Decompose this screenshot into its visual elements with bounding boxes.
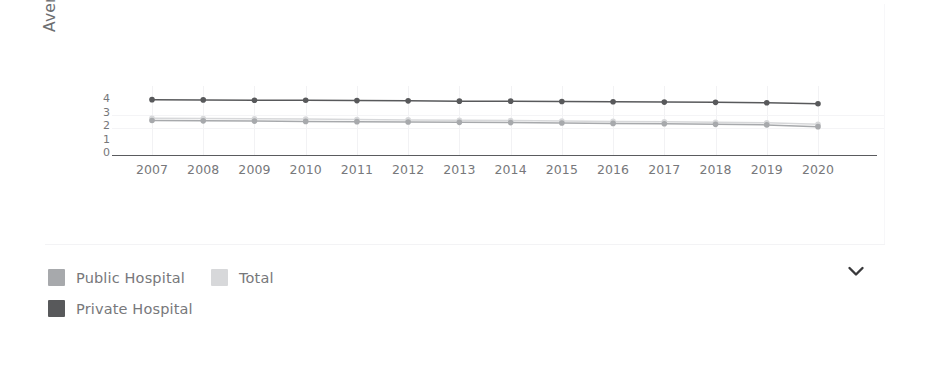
- y-axis-tick-labels: 4 3 2 1 0: [96, 92, 110, 160]
- y-tick-label: 4: [96, 92, 110, 106]
- data-point[interactable]: [662, 99, 668, 105]
- x-tick-label: 2012: [392, 162, 424, 177]
- x-tick-label: 2011: [341, 162, 373, 177]
- data-point[interactable]: [405, 119, 411, 125]
- x-tick-label: 2017: [648, 162, 680, 177]
- chart-legend: Public Hospital Total Private Hospital: [48, 262, 848, 324]
- legend-label-private-hospital: Private Hospital: [76, 301, 193, 317]
- y-tick-label: 2: [96, 119, 110, 133]
- x-tick-label: 2018: [699, 162, 731, 177]
- data-point[interactable]: [303, 119, 309, 125]
- legend-swatch-public-hospital: [48, 269, 65, 286]
- y-axis-title: Average length of stay (day.: [38, 0, 62, 32]
- chevron-down-icon[interactable]: [843, 258, 869, 284]
- data-point[interactable]: [815, 101, 821, 107]
- legend-row: Public Hospital Total: [48, 262, 848, 293]
- legend-item-private-hospital[interactable]: Private Hospital: [48, 293, 193, 324]
- data-point[interactable]: [252, 118, 258, 124]
- data-point[interactable]: [559, 120, 565, 126]
- x-tick-label: 2014: [495, 162, 527, 177]
- x-tick-label: 2007: [136, 162, 168, 177]
- data-point[interactable]: [200, 118, 206, 124]
- legend-swatch-private-hospital: [48, 300, 65, 317]
- data-point[interactable]: [252, 97, 258, 103]
- data-point[interactable]: [354, 119, 360, 125]
- data-point[interactable]: [457, 98, 463, 104]
- legend-item-total[interactable]: Total: [211, 262, 274, 293]
- data-point[interactable]: [508, 120, 514, 126]
- x-axis-line: [112, 155, 877, 156]
- x-tick-label: 2009: [238, 162, 270, 177]
- data-point[interactable]: [457, 120, 463, 126]
- data-point[interactable]: [764, 100, 770, 106]
- data-point[interactable]: [559, 99, 565, 105]
- data-point[interactable]: [662, 121, 668, 127]
- data-point[interactable]: [200, 97, 206, 103]
- x-axis-tick-labels: 2007200820092010201120122013201420152016…: [112, 162, 884, 180]
- data-point[interactable]: [610, 99, 616, 105]
- legend-item-public-hospital[interactable]: Public Hospital: [48, 262, 185, 293]
- x-tick-label: 2008: [187, 162, 219, 177]
- x-tick-label: 2015: [546, 162, 578, 177]
- chart-panel: Average length of stay (day. 4 3 2 1 0 2…: [0, 0, 925, 246]
- panel-right-edge: [884, 4, 885, 244]
- data-point[interactable]: [610, 121, 616, 127]
- plot-area: [112, 14, 884, 156]
- line-series-group: [112, 14, 884, 156]
- x-tick-label: 2016: [597, 162, 629, 177]
- series-private-hospital: [149, 97, 821, 107]
- legend-swatch-total: [211, 269, 228, 286]
- legend-label-total: Total: [239, 270, 274, 286]
- data-point[interactable]: [149, 118, 155, 124]
- x-tick-label: 2010: [290, 162, 322, 177]
- data-point[interactable]: [354, 98, 360, 104]
- x-tick-label: 2013: [443, 162, 475, 177]
- data-point[interactable]: [303, 98, 309, 104]
- data-point[interactable]: [713, 100, 719, 106]
- data-point[interactable]: [815, 124, 821, 130]
- y-tick-label: 3: [96, 106, 110, 120]
- data-point[interactable]: [764, 122, 770, 128]
- legend-row: Private Hospital: [48, 293, 848, 324]
- y-tick-label: 1: [96, 133, 110, 147]
- x-tick-label: 2020: [802, 162, 834, 177]
- data-point[interactable]: [508, 98, 514, 104]
- data-point[interactable]: [149, 97, 155, 103]
- x-tick-label: 2019: [751, 162, 783, 177]
- panel-separator: [45, 244, 885, 245]
- data-point[interactable]: [713, 122, 719, 128]
- data-point[interactable]: [405, 98, 411, 104]
- y-tick-label: 0: [96, 146, 110, 160]
- legend-label-public-hospital: Public Hospital: [76, 270, 185, 286]
